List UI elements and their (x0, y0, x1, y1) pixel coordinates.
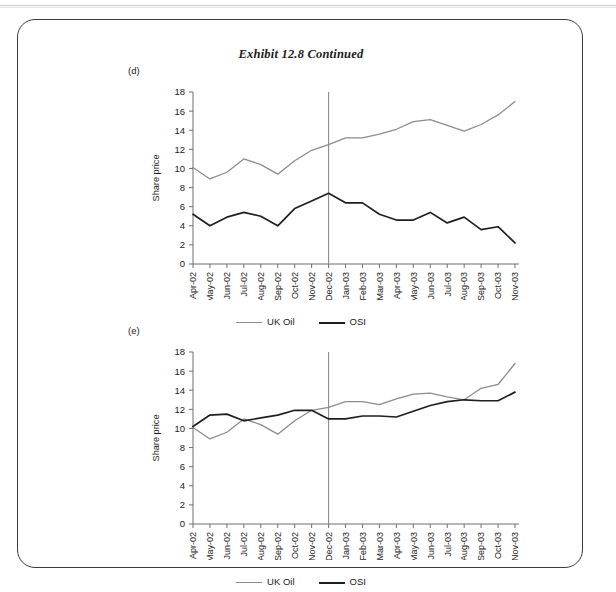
x-tick-label: May-02 (205, 272, 215, 300)
x-tick-label: Oct-03 (493, 532, 503, 559)
series-line-osi (193, 193, 515, 243)
x-tick-label: Apr-03 (392, 532, 402, 559)
y-tick-label: 12 (174, 144, 185, 155)
x-tick-label: Aug-02 (256, 532, 266, 560)
x-tick-label: Sep-02 (273, 272, 283, 300)
legend-label-osi: OSI (350, 576, 366, 587)
y-tick-label: 6 (180, 201, 185, 212)
exhibit-frame: Exhibit 12.8 Continued (d) 0246810121416… (17, 19, 583, 568)
x-tick-label: Feb-03 (358, 272, 368, 300)
x-tick-label: Apr-02 (188, 532, 198, 559)
x-tick-label: Oct-03 (493, 272, 503, 299)
x-tick-label: Feb-03 (358, 532, 368, 560)
y-tick-label: 12 (174, 404, 185, 415)
page-top-rule-secondary (0, 7, 616, 8)
x-tick-label: May-03 (409, 272, 419, 300)
x-tick-label: Apr-03 (392, 272, 402, 299)
y-tick-label: 14 (174, 385, 185, 396)
x-tick-label: Nov-02 (307, 532, 317, 560)
chart-legend-e: UK Oil OSI (18, 573, 584, 587)
y-tick-label: 16 (174, 106, 185, 117)
y-tick-label: 10 (174, 423, 185, 434)
x-tick-label: Oct-02 (290, 272, 300, 299)
y-tick-label: 0 (180, 258, 185, 269)
x-tick-label: Jun-03 (426, 532, 436, 560)
x-tick-label: Jul-03 (443, 272, 453, 297)
x-tick-label: Apr-02 (188, 272, 198, 299)
x-tick-label: Mar-03 (375, 532, 385, 560)
y-tick-label: 16 (174, 366, 185, 377)
y-tick-label: 0 (180, 518, 185, 529)
chart-panel-d: (d) 024681012141618Share priceApr-02May-… (18, 65, 584, 330)
y-axis-title: Share price (151, 415, 161, 462)
legend-label-uk-oil: UK Oil (267, 576, 294, 587)
y-tick-label: 4 (180, 480, 185, 491)
x-tick-label: Jul-02 (239, 272, 249, 297)
x-tick-label: Jul-02 (239, 532, 249, 557)
legend-line-icon-uk-oil (236, 322, 262, 323)
exhibit-title: Exhibit 12.8 Continued (18, 47, 584, 62)
y-tick-label: 14 (174, 125, 185, 136)
legend-line-icon-uk-oil (236, 582, 262, 583)
x-tick-label: Jan-03 (341, 272, 351, 300)
x-tick-label: Jun-03 (426, 272, 436, 300)
x-tick-label: May-03 (409, 532, 419, 560)
y-tick-label: 2 (180, 499, 185, 510)
x-tick-label: Aug-03 (459, 532, 469, 560)
legend-line-icon-osi (319, 582, 345, 584)
x-tick-label: Sep-02 (273, 532, 283, 560)
y-tick-label: 6 (180, 461, 185, 472)
legend-item-uk-oil: UK Oil (236, 576, 294, 587)
x-tick-label: Nov-02 (307, 272, 317, 300)
series-line-uk-oil (193, 102, 515, 179)
x-tick-label: Jun-02 (222, 532, 232, 560)
x-tick-label: Sep-03 (476, 272, 486, 300)
y-tick-label: 10 (174, 163, 185, 174)
x-tick-label: Jan-03 (341, 532, 351, 560)
chart-plot-area-e: 024681012141618Share priceApr-02May-02Ju… (18, 325, 584, 560)
x-tick-label: Dec-02 (324, 532, 334, 560)
line-chart-e: 024681012141618Share priceApr-02May-02Ju… (18, 325, 584, 555)
series-line-uk-oil (193, 363, 515, 438)
y-tick-label: 18 (174, 86, 185, 97)
x-tick-label: Sep-03 (476, 532, 486, 560)
y-tick-label: 4 (180, 220, 185, 231)
legend-item-osi: OSI (319, 576, 366, 587)
page-top-rule (0, 5, 616, 6)
y-tick-label: 18 (174, 346, 185, 357)
x-tick-label: May-02 (205, 532, 215, 560)
x-tick-label: Nov-03 (510, 532, 520, 560)
x-tick-label: Aug-03 (459, 272, 469, 300)
chart-plot-area-d: 024681012141618Share priceApr-02May-02Ju… (18, 65, 584, 300)
y-tick-label: 8 (180, 182, 185, 193)
legend-line-icon-osi (319, 322, 345, 324)
y-tick-label: 2 (180, 239, 185, 250)
y-axis-title: Share price (151, 155, 161, 202)
x-tick-label: Aug-02 (256, 272, 266, 300)
x-tick-label: Jul-03 (443, 532, 453, 557)
x-tick-label: Jun-02 (222, 272, 232, 300)
x-tick-label: Oct-02 (290, 532, 300, 559)
x-tick-label: Nov-03 (510, 272, 520, 300)
chart-panel-e: (e) 024681012141618Share priceApr-02May-… (18, 325, 584, 585)
y-tick-label: 8 (180, 442, 185, 453)
line-chart-d: 024681012141618Share priceApr-02May-02Ju… (18, 65, 584, 295)
x-tick-label: Mar-03 (375, 272, 385, 300)
x-tick-label: Dec-02 (324, 272, 334, 300)
